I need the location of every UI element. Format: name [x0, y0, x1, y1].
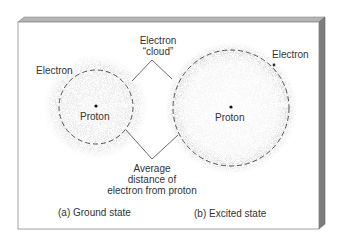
electron-label-right: Electron: [272, 49, 309, 60]
electron-cloud-label: Electron “cloud”: [128, 35, 188, 57]
proton-label-left: Proton: [80, 111, 109, 122]
average-distance-line2: distance of: [102, 174, 202, 185]
electron-dot-right: [273, 64, 276, 67]
proton-dot-left: [94, 104, 97, 107]
board-top-edge: [18, 17, 325, 22]
caption-excited-state: (b) Excited state: [194, 208, 266, 219]
electron-cloud-label-line2: “cloud”: [128, 46, 188, 57]
electron-cloud-label-line1: Electron: [128, 35, 188, 46]
average-distance-label: Average distance of electron from proton: [102, 163, 202, 196]
electron-label-left: Electron: [36, 65, 73, 76]
average-distance-line1: Average: [102, 163, 202, 174]
proton-dot-right: [229, 105, 232, 108]
board-side-edge: [319, 17, 325, 229]
average-distance-line3: electron from proton: [102, 185, 202, 196]
caption-ground-state: (a) Ground state: [58, 207, 131, 218]
proton-label-right: Proton: [215, 112, 244, 123]
